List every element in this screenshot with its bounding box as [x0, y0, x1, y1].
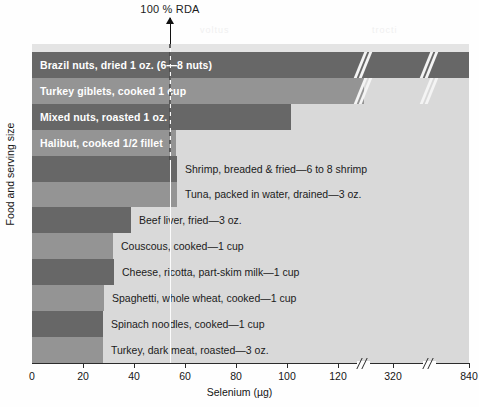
bar-label: Beef liver, fried—3 oz.: [139, 207, 242, 233]
bar-row: Spinach noodles, cooked—1 cup: [32, 311, 469, 337]
bar: [32, 156, 177, 182]
x-tick-label: 120: [329, 370, 347, 382]
x-tick: [469, 363, 470, 368]
bar-label: Tuna, packed in water, drained—3 oz.: [185, 182, 361, 208]
bar-label: Turkey giblets, cooked 1 cup: [40, 78, 186, 104]
rda-annotation-label: 100 % RDA: [100, 3, 240, 15]
axis-break-icon: [423, 358, 435, 369]
bar: [32, 259, 114, 285]
plot-top-strip: [32, 44, 469, 52]
x-tick-label: 40: [128, 370, 140, 382]
bar-row: Couscous, cooked—1 cup: [32, 233, 469, 259]
bar-label: Turkey, dark meat, roasted—3 oz.: [111, 337, 269, 363]
x-tick-label: 20: [77, 370, 89, 382]
bar-row: Mixed nuts, roasted 1 oz.: [32, 104, 469, 130]
bar-row: Halibut, cooked 1/2 fillet: [32, 130, 469, 156]
y-axis-title: Food and serving size: [4, 94, 16, 254]
bar-label: Shrimp, breaded & fried—6 to 8 shrimp: [185, 156, 367, 182]
scan-artifact-two: trocti: [372, 25, 398, 35]
bar-row: Cheese, ricotta, part-skim milk—1 cup: [32, 259, 469, 285]
bar-row: Brazil nuts, dried 1 oz. (6—8 nuts): [32, 52, 469, 78]
x-axis-title: Selenium (µg): [0, 386, 479, 398]
x-tick-label: 60: [179, 370, 191, 382]
x-tick: [393, 363, 394, 368]
axis-break-icon: [357, 358, 369, 369]
x-tick: [287, 363, 288, 368]
x-tick-label: 0: [29, 370, 35, 382]
bar-label: Couscous, cooked—1 cup: [121, 233, 244, 259]
bar-label: Spinach noodles, cooked—1 cup: [111, 311, 265, 337]
scan-artifact-one: voltus: [200, 25, 230, 35]
bar-label: Brazil nuts, dried 1 oz. (6—8 nuts): [40, 52, 212, 78]
x-tick-label: 80: [230, 370, 242, 382]
x-tick: [134, 363, 135, 368]
plot-area: Brazil nuts, dried 1 oz. (6—8 nuts)Turke…: [32, 44, 469, 363]
bar-row: Beef liver, fried—3 oz.: [32, 207, 469, 233]
x-tick: [338, 363, 339, 368]
bar-row: Spaghetti, whole wheat, cooked—1 cup: [32, 285, 469, 311]
x-tick: [236, 363, 237, 368]
bar-row: Turkey giblets, cooked 1 cup: [32, 78, 469, 104]
rda-arrow-icon: [170, 18, 171, 44]
rda-guide-dashes: [169, 44, 171, 164]
bar-row: Tuna, packed in water, drained—3 oz.: [32, 182, 469, 208]
x-tick-label: 100: [278, 370, 296, 382]
bar: [32, 182, 177, 208]
bar: [32, 311, 103, 337]
bar: [32, 285, 104, 311]
chart-figure: 100 % RDA voltus trocti Brazil nuts, dri…: [0, 0, 479, 407]
bar: [32, 337, 103, 363]
bar-row: Shrimp, breaded & fried—6 to 8 shrimp: [32, 156, 469, 182]
bar-row: Turkey, dark meat, roasted—3 oz.: [32, 337, 469, 363]
bar-label: Halibut, cooked 1/2 fillet: [40, 130, 163, 156]
bar-label: Mixed nuts, roasted 1 oz.: [40, 104, 167, 130]
x-tick-label: 840: [460, 370, 478, 382]
bar: [32, 207, 131, 233]
x-axis-line: [32, 363, 469, 364]
bar: [32, 233, 113, 259]
bar-label: Cheese, ricotta, part-skim milk—1 cup: [122, 259, 299, 285]
x-tick: [185, 363, 186, 368]
x-tick-label: 320: [384, 370, 402, 382]
x-tick: [83, 363, 84, 368]
bar-rows: Brazil nuts, dried 1 oz. (6—8 nuts)Turke…: [32, 52, 469, 363]
bar-label: Spaghetti, whole wheat, cooked—1 cup: [112, 285, 296, 311]
